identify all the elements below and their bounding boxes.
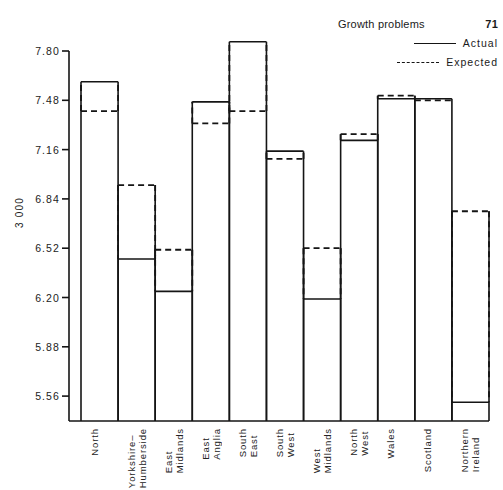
bar-group <box>229 42 266 421</box>
x-tick-label: Yorkshire–Humberside <box>126 428 148 488</box>
x-tick-label: SouthEast <box>237 428 259 457</box>
x-tick-label: Scotland <box>422 428 433 472</box>
x-tick-label: Wales <box>385 428 396 459</box>
bar-group <box>341 134 378 421</box>
bar-group <box>452 211 489 421</box>
bars-layer <box>81 42 489 421</box>
chart-canvas <box>0 0 503 490</box>
chart-page: Growth problems 71 Actual Expected 3 000… <box>0 0 503 490</box>
bar-group <box>81 82 118 421</box>
y-tick-label: 5.88 <box>22 341 60 353</box>
y-tick-label: 5.56 <box>22 390 60 402</box>
x-tick-label: SouthWest <box>274 428 296 457</box>
bar-group <box>415 99 452 421</box>
bar-group <box>266 151 303 421</box>
y-tick-label: 7.16 <box>22 144 60 156</box>
bar-group <box>378 96 415 421</box>
x-tick-label: NorthWest <box>348 428 370 456</box>
x-tick-label: WestMidlands <box>311 428 333 473</box>
plot-area <box>0 0 503 490</box>
y-tick-label: 7.80 <box>22 45 60 57</box>
bar-group <box>192 102 229 421</box>
x-tick-label: EastAnglia <box>200 428 222 460</box>
x-tick-label: NorthernIreland <box>459 428 481 472</box>
x-tick-label: North <box>89 428 100 456</box>
y-tick-label: 7.48 <box>22 94 60 106</box>
bar-group <box>155 250 192 421</box>
axis-layer <box>62 51 489 421</box>
y-tick-label: 6.52 <box>22 242 60 254</box>
bar-group <box>118 185 155 421</box>
x-tick-label: EastMidlands <box>163 428 185 473</box>
y-tick-label: 6.84 <box>22 193 60 205</box>
bar-group <box>304 248 341 421</box>
y-tick-label: 6.20 <box>22 292 60 304</box>
